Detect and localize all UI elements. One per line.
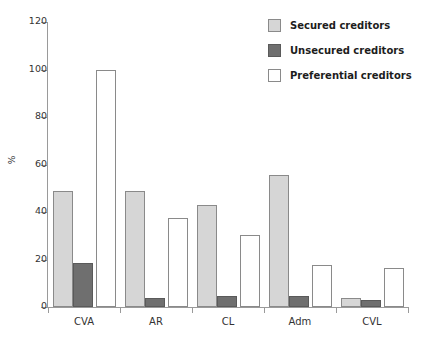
legend-label: Preferential creditors (290, 70, 412, 81)
x-tick-label-cvl: CVL (342, 316, 402, 327)
bar-ar-secured (125, 191, 145, 307)
x-tick-label-ar: AR (126, 316, 186, 327)
y-tick-label: 80 (13, 110, 47, 121)
bar-ar-preferential (168, 218, 188, 307)
y-tick-label: 0 (13, 300, 47, 311)
x-tick-mark (192, 307, 193, 313)
bar-cl-preferential (240, 235, 260, 307)
y-tick-label: 100 (13, 63, 47, 74)
x-tick-mark (264, 307, 265, 313)
legend-label: Unsecured creditors (290, 45, 404, 56)
x-axis-line (47, 307, 408, 308)
legend-item[interactable]: Unsecured creditors (268, 38, 412, 63)
bar-ar-unsecured (145, 298, 165, 308)
x-tick-mark (336, 307, 337, 313)
x-tick-label-adm: Adm (270, 316, 330, 327)
legend-item[interactable]: Secured creditors (268, 13, 412, 38)
bar-cva-secured (53, 191, 73, 307)
x-tick-label-cva: CVA (54, 316, 114, 327)
chart-legend: Secured creditorsUnsecured creditorsPref… (268, 13, 412, 88)
legend-label: Secured creditors (290, 20, 390, 31)
bar-adm-preferential (312, 265, 332, 307)
x-tick-mark (48, 307, 49, 313)
x-tick-mark (408, 307, 409, 313)
legend-swatch-icon (268, 44, 281, 57)
bar-chart: % 020406080100120 CVAARCLAdmCVL Secured … (0, 0, 433, 341)
x-tick-label-cl: CL (198, 316, 258, 327)
y-tick-label: 60 (13, 158, 47, 169)
bar-cva-unsecured (73, 263, 93, 307)
bar-cva-preferential (96, 70, 116, 308)
y-tick-label: 20 (13, 253, 47, 264)
y-tick: 120 (0, 22, 47, 23)
y-tick-label: 40 (13, 205, 47, 216)
y-tick: 80 (0, 117, 47, 118)
y-tick: 40 (0, 212, 47, 213)
bar-cvl-preferential (384, 268, 404, 307)
bar-adm-secured (269, 175, 289, 307)
legend-swatch-icon (268, 19, 281, 32)
x-tick-mark (120, 307, 121, 313)
y-tick: 100 (0, 70, 47, 71)
legend-item[interactable]: Preferential creditors (268, 63, 412, 88)
bar-cvl-secured (341, 298, 361, 308)
y-tick-label: 120 (13, 15, 47, 26)
y-tick: 60 (0, 165, 47, 166)
y-tick: 0 (0, 307, 47, 308)
y-tick: 20 (0, 260, 47, 261)
bar-cvl-unsecured (361, 300, 381, 307)
bar-adm-unsecured (289, 296, 309, 307)
bar-cl-unsecured (217, 296, 237, 307)
legend-swatch-icon (268, 69, 281, 82)
bar-cl-secured (197, 205, 217, 307)
